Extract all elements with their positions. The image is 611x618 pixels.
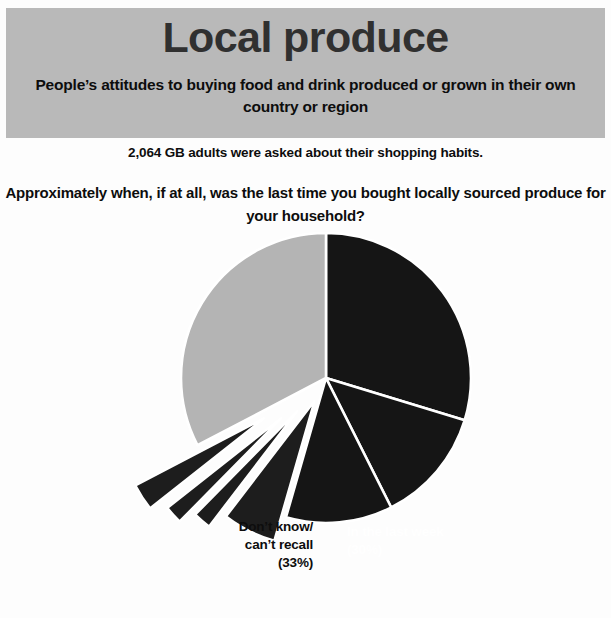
page-title: Local produce	[6, 14, 605, 61]
infographic-root: Local produce People’s attitudes to buyi…	[0, 0, 611, 618]
slice-label-in-the-last-week: In the last week (30%)	[347, 523, 497, 559]
page-subtitle: People’s attitudes to buying food and dr…	[6, 74, 605, 119]
survey-question: Approximately when, if at all, was the l…	[0, 182, 611, 227]
header-band: Local produce People’s attitudes to buyi…	[6, 8, 605, 138]
pie-slice-group: In the last week (30%)In the last two we…	[135, 233, 471, 541]
slice-label-dont-know: Don’t know/ can’t recall (33%)	[148, 518, 313, 571]
pie-chart: In the last week (30%)In the last two we…	[0, 228, 611, 618]
sample-description: 2,064 GB adults were asked about their s…	[0, 145, 611, 160]
